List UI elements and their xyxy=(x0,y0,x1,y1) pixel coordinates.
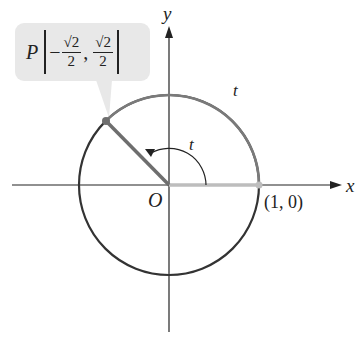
angle-arc xyxy=(151,148,206,185)
x-axis-arrow-icon xyxy=(330,181,342,189)
angle-arrow-icon xyxy=(145,149,155,157)
angle-label: t xyxy=(189,136,194,153)
left-bracket xyxy=(44,30,46,74)
coordinate-separator: , xyxy=(83,41,88,64)
callout-pointer xyxy=(96,80,112,118)
radius-to-P xyxy=(106,121,169,185)
point-P-name: P xyxy=(26,41,38,64)
right-bracket xyxy=(117,30,119,74)
y-denominator: 2 xyxy=(99,53,107,70)
x-sign: − xyxy=(49,41,60,64)
arc-t xyxy=(105,95,259,185)
point-P xyxy=(102,117,110,125)
point-P-coordinates: P − √2 2 , √2 2 xyxy=(26,29,122,75)
y-axis-label: y xyxy=(163,4,171,23)
arc-length-label: t xyxy=(233,82,238,99)
y-numerator: √2 xyxy=(93,34,113,52)
y-coordinate-fraction: √2 2 xyxy=(93,34,113,70)
origin-label: O xyxy=(148,190,162,210)
x-coordinate-fraction: √2 2 xyxy=(62,34,82,70)
y-axis-arrow-icon xyxy=(165,26,173,38)
point-1-0-label: (1, 0) xyxy=(264,193,303,211)
x-numerator: √2 xyxy=(62,34,82,52)
x-denominator: 2 xyxy=(68,53,76,70)
x-axis-label: x xyxy=(346,176,354,195)
point-1-0 xyxy=(256,182,263,189)
